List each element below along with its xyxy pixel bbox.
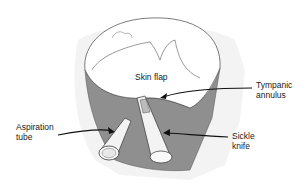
label-tympanic-line2: annulus (256, 90, 292, 100)
label-sickle-line2: knife (232, 141, 255, 151)
label-aspiration-line2: tube (16, 132, 54, 142)
label-aspiration-line1: Aspiration (16, 122, 54, 132)
label-skin-flap: Skin flap (135, 72, 168, 82)
label-tympanic-annulus: Tympanic annulus (256, 80, 292, 100)
label-sickle-knife: Sickle knife (232, 131, 255, 151)
label-aspiration-tube: Aspiration tube (16, 122, 54, 142)
label-sickle-line1: Sickle (232, 131, 255, 141)
label-skin-flap-text: Skin flap (135, 72, 168, 82)
ear-canal-diagram: Skin flap Tympanic annulus Aspiration tu… (0, 0, 308, 191)
label-tympanic-line1: Tympanic (256, 80, 292, 90)
